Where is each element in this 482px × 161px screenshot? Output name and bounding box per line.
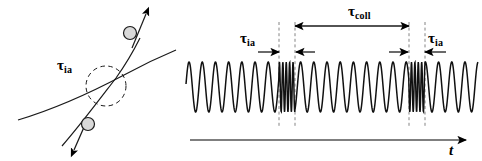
tau-subscript: coll bbox=[355, 10, 371, 21]
tau-ia-left-label: τia bbox=[240, 30, 255, 48]
tau-symbol: τ bbox=[348, 3, 355, 19]
tau-subscript: ia bbox=[247, 37, 255, 48]
tau-subscript: ia bbox=[435, 37, 443, 48]
tau-ia-right-label: τia bbox=[428, 30, 443, 48]
tau-symbol: τ bbox=[428, 30, 435, 46]
tau-symbol: τ bbox=[240, 30, 247, 46]
right-panel-signal bbox=[0, 0, 482, 161]
time-axis-label: t bbox=[449, 143, 453, 158]
tau-coll-label: τcoll bbox=[348, 3, 371, 21]
figure-root: τia τcoll bbox=[0, 0, 482, 161]
oscillation-waveform bbox=[186, 62, 478, 112]
